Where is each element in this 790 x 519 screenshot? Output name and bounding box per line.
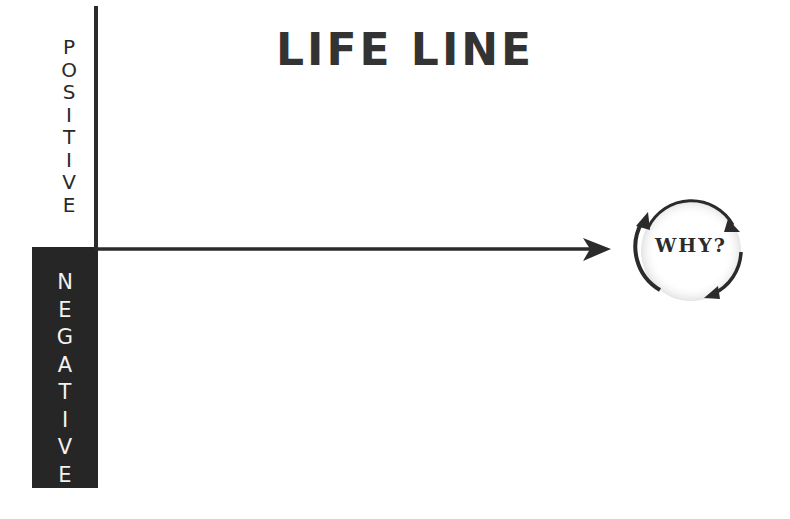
why-label: WHY? bbox=[636, 236, 746, 255]
axes-graphic bbox=[0, 0, 790, 519]
